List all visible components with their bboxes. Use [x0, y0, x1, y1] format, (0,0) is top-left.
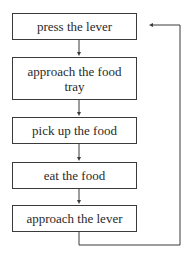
- step-approach-lever: approach the lever: [12, 205, 137, 232]
- arrow-down-icon: [77, 52, 81, 56]
- step-label: approach the lever: [26, 211, 122, 226]
- step-label: pick up the food: [32, 123, 117, 138]
- arrow-down-icon: [77, 200, 81, 204]
- step-approach-food-tray: approach the food tray: [12, 57, 137, 100]
- step-label: approach the food tray: [27, 64, 122, 94]
- arrow-down-icon: [77, 112, 81, 116]
- step-label: eat the food: [44, 168, 105, 183]
- arrow-left-icon: [149, 23, 153, 27]
- step-press-lever: press the lever: [12, 13, 137, 40]
- step-label: press the lever: [37, 19, 112, 34]
- step-pick-up-food: pick up the food: [12, 117, 137, 144]
- step-eat-food: eat the food: [12, 162, 137, 189]
- arrow-down-icon: [77, 157, 81, 161]
